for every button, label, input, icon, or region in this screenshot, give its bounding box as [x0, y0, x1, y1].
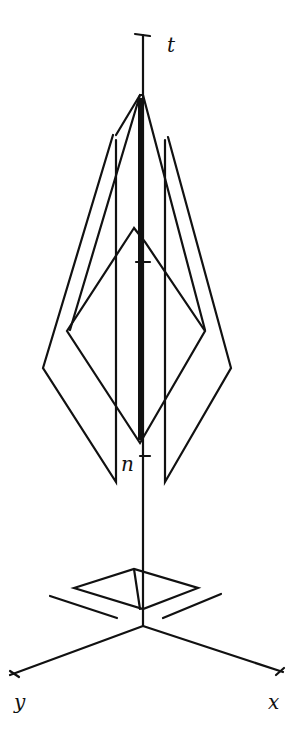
y-axis — [10, 626, 143, 675]
y-label: y — [13, 690, 26, 714]
x-axis — [143, 626, 283, 672]
t-label: t — [167, 33, 176, 57]
inner-diamond — [67, 228, 205, 443]
base-diamond-inner — [134, 569, 140, 609]
t-axis-tick — [135, 34, 150, 36]
x-label: x — [268, 690, 279, 714]
outer-right-kite — [165, 137, 231, 482]
n-label: n — [121, 452, 134, 476]
apex-to-inner-right — [143, 95, 205, 330]
base-left-bar — [50, 596, 117, 618]
outer-left-kite — [43, 135, 116, 482]
axis-diagram: t n y x — [0, 0, 300, 739]
apex-to-inner-left — [70, 95, 140, 330]
